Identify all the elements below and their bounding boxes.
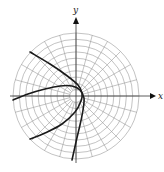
polar-plot: x y bbox=[0, 0, 164, 172]
x-axis-label: x bbox=[158, 91, 163, 101]
x-axis-arrow-icon bbox=[150, 93, 156, 99]
curve-2 bbox=[13, 86, 84, 160]
y-axis-label: y bbox=[72, 5, 79, 15]
curve-1 bbox=[30, 52, 82, 139]
y-axis-arrow-icon bbox=[73, 17, 79, 24]
